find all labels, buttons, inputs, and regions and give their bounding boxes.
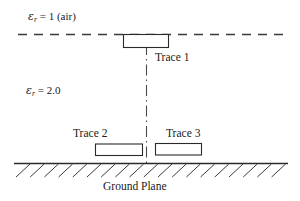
trace1-label: Trace 1 [155, 52, 189, 64]
ground-plane-label: Ground Plane [103, 181, 167, 193]
trace2-conductor [96, 144, 143, 156]
trace1-conductor [124, 35, 169, 48]
ground-plane-hatching [16, 164, 286, 177]
dielectric-permittivity-label: εr = 2.0 [26, 85, 60, 98]
trace2-label: Trace 2 [73, 128, 107, 140]
air-permittivity-value: = 1 (air) [37, 10, 76, 22]
trace3-conductor [156, 144, 202, 156]
microstrip-cross-section-diagram [0, 0, 300, 201]
trace3-label: Trace 3 [166, 128, 200, 140]
air-permittivity-label: εr = 1 (air) [28, 11, 76, 24]
dielectric-permittivity-value: = 2.0 [35, 84, 60, 96]
